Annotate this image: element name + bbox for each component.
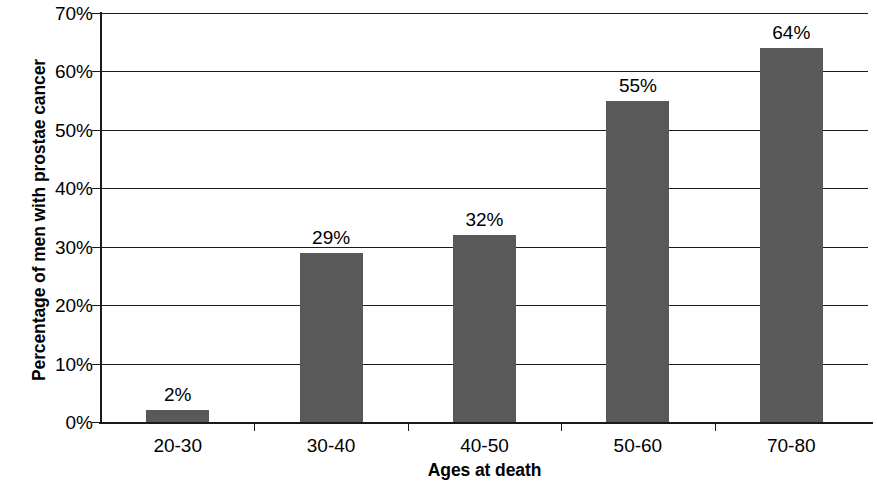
x-axis-tick-label: 30-40 <box>261 436 401 456</box>
gridline <box>101 422 868 423</box>
x-axis-tick-label: 20-30 <box>108 436 248 456</box>
bar <box>300 253 363 422</box>
bar <box>760 48 823 422</box>
x-axis-tick <box>561 422 562 431</box>
y-axis-tick-label: 60% <box>7 62 93 81</box>
y-axis-tick-label: 0% <box>7 413 93 432</box>
y-axis-tick-label: 30% <box>7 238 93 257</box>
x-axis-tick <box>715 422 716 431</box>
y-axis-tick <box>92 188 101 189</box>
x-axis-tick-label: 50-60 <box>568 436 708 456</box>
plot-area: 2%29%32%55%64% <box>101 13 868 422</box>
y-axis-tick-label: 20% <box>7 296 93 315</box>
y-axis-tick-label: 40% <box>7 179 93 198</box>
y-axis-tick <box>92 130 101 131</box>
gridline <box>101 13 868 14</box>
y-axis-tick <box>92 13 101 14</box>
x-axis-tick <box>408 422 409 431</box>
y-axis-tick-label: 10% <box>7 355 93 374</box>
gridline <box>101 71 868 72</box>
bar <box>146 410 209 422</box>
x-axis-tick <box>254 422 255 431</box>
bar-value-label: 29% <box>271 228 391 247</box>
bar-value-label: 32% <box>425 210 545 229</box>
x-axis-title: Ages at death <box>101 461 868 480</box>
y-axis-tick <box>92 71 101 72</box>
y-axis-tick <box>92 305 101 306</box>
y-axis-tick <box>92 422 101 423</box>
x-axis-tick-label: 40-50 <box>415 436 555 456</box>
y-axis-tick-label: 50% <box>7 121 93 140</box>
y-axis-tick <box>92 364 101 365</box>
gridline <box>101 188 868 189</box>
y-axis-tick-labels: 0%10%20%30%40%50%60%70% <box>0 0 93 482</box>
bar-value-label: 64% <box>731 23 851 42</box>
bar <box>453 235 516 422</box>
y-axis-tick-label: 70% <box>7 4 93 23</box>
gridline <box>101 130 868 131</box>
bar-value-label: 2% <box>118 385 238 404</box>
bar-chart-figure: Percentage of men with prostae cancer 0%… <box>0 0 877 482</box>
y-axis-tick <box>92 247 101 248</box>
x-axis-tick-label: 70-80 <box>721 436 861 456</box>
bar-value-label: 55% <box>578 76 698 95</box>
bar <box>606 101 669 422</box>
